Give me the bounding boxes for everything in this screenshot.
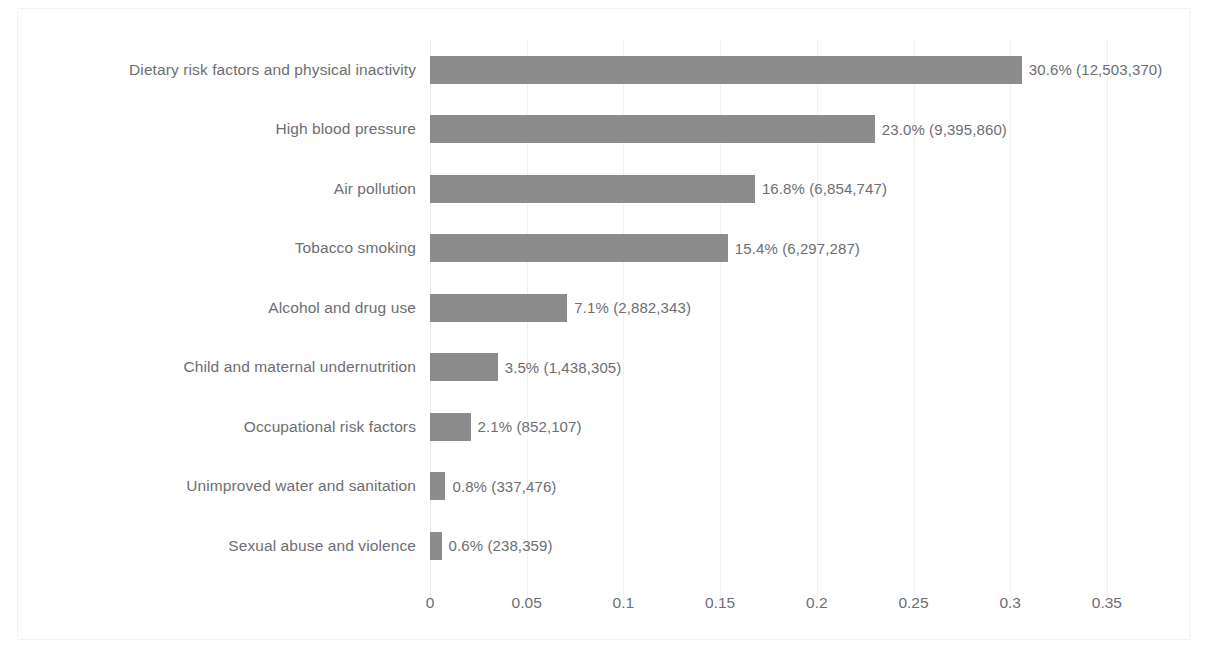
category-label: Occupational risk factors <box>244 418 416 436</box>
bar-row: Air pollution16.8% (6,854,747) <box>0 159 1207 219</box>
category-label: Child and maternal undernutrition <box>184 358 417 376</box>
bar-value-label: 2.1% (852,107) <box>478 418 582 435</box>
x-tick-label: 0.15 <box>705 594 735 612</box>
bar-value-label: 16.8% (6,854,747) <box>762 180 887 197</box>
bar <box>430 56 1022 84</box>
bar-value-label: 30.6% (12,503,370) <box>1029 61 1163 78</box>
bar-row: Alcohol and drug use7.1% (2,882,343) <box>0 278 1207 338</box>
bar-track: 16.8% (6,854,747) <box>430 175 887 203</box>
x-tick-label: 0.1 <box>613 594 635 612</box>
category-label: Sexual abuse and violence <box>228 537 416 555</box>
bar <box>430 294 567 322</box>
bar-value-label: 15.4% (6,297,287) <box>735 240 860 257</box>
bar-row: Tobacco smoking15.4% (6,297,287) <box>0 219 1207 279</box>
bar-track: 2.1% (852,107) <box>430 413 582 441</box>
x-tick-label: 0.35 <box>1092 594 1122 612</box>
bar <box>430 175 755 203</box>
x-tick-label: 0.3 <box>999 594 1021 612</box>
x-axis: 00.050.10.150.20.250.30.35 <box>0 570 1207 630</box>
bar-track: 23.0% (9,395,860) <box>430 115 1007 143</box>
bar-value-label: 0.8% (337,476) <box>452 478 556 495</box>
bar-track: 3.5% (1,438,305) <box>430 353 621 381</box>
bar-track: 30.6% (12,503,370) <box>430 56 1162 84</box>
bar-row: Unimproved water and sanitation0.8% (337… <box>0 457 1207 517</box>
category-label: High blood pressure <box>275 120 416 138</box>
bar-track: 0.6% (238,359) <box>430 532 553 560</box>
x-tick-label: 0.2 <box>806 594 828 612</box>
bar-value-label: 0.6% (238,359) <box>449 537 553 554</box>
bar-rows: Dietary risk factors and physical inacti… <box>0 40 1207 570</box>
bar <box>430 413 471 441</box>
bar-row: Occupational risk factors2.1% (852,107) <box>0 397 1207 457</box>
bar <box>430 115 875 143</box>
category-label: Air pollution <box>334 180 416 198</box>
bar-track: 0.8% (337,476) <box>430 472 556 500</box>
category-label: Tobacco smoking <box>295 239 416 257</box>
bar-value-label: 7.1% (2,882,343) <box>574 299 691 316</box>
bar-value-label: 23.0% (9,395,860) <box>882 121 1007 138</box>
bar-row: Dietary risk factors and physical inacti… <box>0 40 1207 100</box>
bar <box>430 234 728 262</box>
bar-row: Sexual abuse and violence0.6% (238,359) <box>0 516 1207 576</box>
bar-chart-figure: Dietary risk factors and physical inacti… <box>0 0 1207 655</box>
category-label: Unimproved water and sanitation <box>186 477 416 495</box>
bar <box>430 353 498 381</box>
x-tick-label: 0 <box>426 594 435 612</box>
bar-value-label: 3.5% (1,438,305) <box>505 359 622 376</box>
bar-track: 15.4% (6,297,287) <box>430 234 860 262</box>
bar <box>430 532 442 560</box>
bar-row: High blood pressure23.0% (9,395,860) <box>0 100 1207 160</box>
x-tick-label: 0.25 <box>898 594 928 612</box>
bar-row: Child and maternal undernutrition3.5% (1… <box>0 338 1207 398</box>
category-label: Dietary risk factors and physical inacti… <box>129 61 416 79</box>
bar <box>430 472 445 500</box>
category-label: Alcohol and drug use <box>268 299 416 317</box>
x-tick-label: 0.05 <box>512 594 542 612</box>
bar-track: 7.1% (2,882,343) <box>430 294 691 322</box>
